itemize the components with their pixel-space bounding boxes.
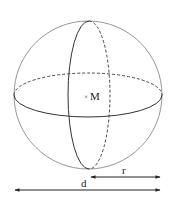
center-marker: × — [84, 93, 88, 101]
diameter-label: d — [81, 177, 87, 189]
sphere-outline — [14, 21, 162, 169]
radius-label: r — [122, 164, 126, 176]
equator-back-dashed — [14, 73, 162, 95]
center-label: M — [90, 90, 100, 102]
sphere-diagram: × M r d — [0, 0, 169, 200]
equator-front-solid — [14, 95, 162, 117]
